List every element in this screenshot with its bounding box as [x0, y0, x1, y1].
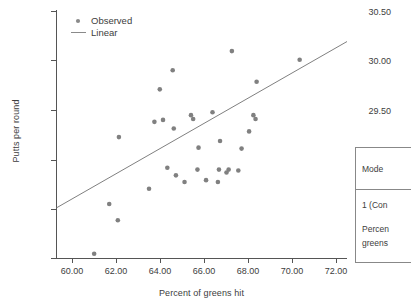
data-point	[191, 117, 196, 122]
data-point	[236, 168, 241, 173]
data-point	[204, 178, 209, 183]
legend-label-linear: Linear	[91, 27, 117, 38]
data-point	[157, 87, 162, 92]
data-point	[92, 251, 97, 256]
data-point	[117, 135, 122, 140]
legend-marks	[71, 19, 86, 33]
data-point	[161, 118, 166, 123]
coefficients-table-panel: Mode 1 (Con Percen greens	[355, 147, 411, 263]
table-cell-greens: greens	[362, 238, 388, 248]
observed-points	[92, 49, 302, 256]
table-header-row: Mode	[356, 148, 411, 190]
legend-label-observed: Observed	[91, 15, 132, 26]
table-body: 1 (Con Percen greens	[356, 190, 411, 263]
data-point	[174, 173, 179, 178]
data-point	[182, 180, 187, 185]
data-point	[116, 218, 121, 223]
data-point	[217, 167, 222, 172]
data-point	[216, 180, 221, 185]
data-point	[152, 120, 157, 125]
data-point	[170, 68, 175, 73]
data-point	[297, 57, 302, 62]
data-point	[147, 186, 152, 191]
data-point	[247, 129, 252, 134]
data-point	[239, 146, 244, 151]
data-point	[254, 79, 259, 84]
data-point	[195, 167, 200, 172]
data-point	[165, 165, 170, 170]
table-cell-constant: 1 (Con	[362, 200, 388, 210]
data-point	[196, 145, 201, 150]
data-point	[253, 117, 258, 122]
regression-line	[57, 42, 348, 208]
table-header-model: Mode	[362, 164, 383, 174]
data-point	[218, 139, 223, 144]
table-cell-percent: Percen	[362, 224, 389, 234]
linear-fit-line	[57, 42, 348, 208]
data-point	[171, 126, 176, 131]
axis-lines	[51, 10, 347, 263]
data-point	[230, 49, 235, 54]
data-point	[210, 110, 215, 115]
data-point	[107, 202, 112, 207]
data-point	[226, 167, 231, 172]
